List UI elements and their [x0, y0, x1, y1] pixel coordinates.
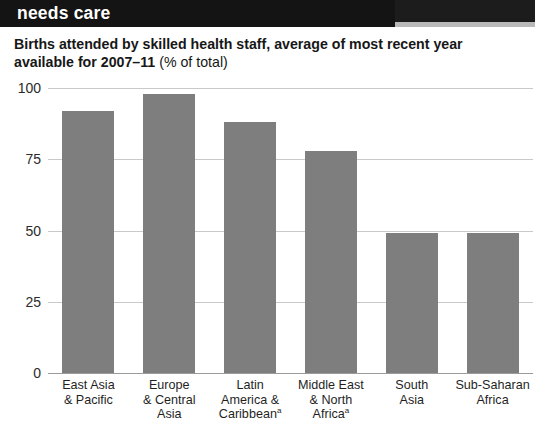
- x-axis-label-line: America &: [210, 393, 291, 408]
- x-axis-label-line: Europe: [129, 378, 210, 393]
- bar-slot: [210, 88, 291, 373]
- x-axis-label-line: Middle East: [291, 378, 372, 393]
- x-axis-label: LatinAmerica &Caribbeana: [210, 378, 291, 422]
- bar[interactable]: [62, 111, 114, 373]
- footnote-marker: a: [277, 406, 281, 415]
- x-axis-label: Middle East& NorthAfricaa: [291, 378, 372, 422]
- bars-group: [48, 88, 533, 374]
- bar-slot: [452, 88, 533, 373]
- bar[interactable]: [386, 233, 438, 373]
- x-axis-labels: East Asia& PacificEurope& CentralAsiaLat…: [48, 378, 533, 432]
- y-axis-tick-label: 25: [0, 295, 41, 309]
- y-axis-tick-label: 0: [0, 366, 41, 380]
- bar[interactable]: [224, 122, 276, 373]
- bar-slot: [129, 88, 210, 373]
- x-axis-label-line: Caribbeana: [210, 407, 291, 422]
- bar[interactable]: [143, 94, 195, 373]
- x-axis-label: SouthAsia: [371, 378, 452, 407]
- x-axis-label: Sub-SaharanAfrica: [452, 378, 533, 407]
- x-axis-label-line: Asia: [371, 393, 452, 408]
- x-axis-label-line: Africa: [452, 393, 533, 408]
- x-axis-label: East Asia& Pacific: [48, 378, 129, 407]
- x-axis-label-line: & Central: [129, 393, 210, 408]
- x-axis-label-line: & North: [291, 393, 372, 408]
- bar-chart: 0255075100 East Asia& PacificEurope& Cen…: [0, 0, 535, 432]
- footnote-marker: a: [345, 406, 349, 415]
- x-axis-label-line: Latin: [210, 378, 291, 393]
- x-axis-label-line: Sub-Saharan: [452, 378, 533, 393]
- y-axis-tick-label: 75: [0, 152, 41, 166]
- bar-slot: [371, 88, 452, 373]
- bar[interactable]: [467, 233, 519, 373]
- bar-slot: [291, 88, 372, 373]
- y-axis-tick-label: 50: [0, 224, 41, 238]
- x-axis-label-line: & Pacific: [48, 393, 129, 408]
- x-axis-label-line: Asia: [129, 407, 210, 422]
- x-axis-label-line: South: [371, 378, 452, 393]
- x-axis-label-line: East Asia: [48, 378, 129, 393]
- bar[interactable]: [305, 151, 357, 373]
- y-axis-tick-label: 100: [0, 81, 41, 95]
- bar-slot: [48, 88, 129, 373]
- x-axis-label-line: Africaa: [291, 407, 372, 422]
- x-axis-label: Europe& CentralAsia: [129, 378, 210, 422]
